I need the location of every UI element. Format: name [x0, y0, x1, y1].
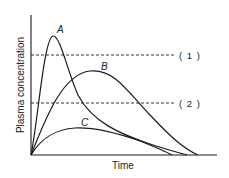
plasma-concentration-chart: ( 1 ) ( 2 ) A B C Time Plasma concentrat… — [0, 0, 229, 178]
threshold-label-1: ( 1 ) — [179, 50, 201, 61]
curve-label-b: B — [101, 61, 108, 72]
curve-b — [31, 71, 198, 155]
curve-a — [31, 36, 187, 155]
curve-label-a: A — [56, 24, 64, 35]
threshold-label-2: ( 2 ) — [179, 98, 201, 109]
x-axis-label: Time — [112, 160, 134, 171]
curve-c — [31, 128, 172, 155]
y-axis-label: Plasma concentration — [15, 37, 26, 133]
curve-label-c: C — [81, 117, 89, 128]
